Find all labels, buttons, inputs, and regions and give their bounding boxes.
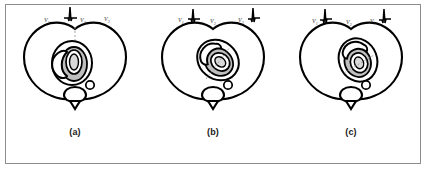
descending-aorta: [224, 81, 232, 89]
descending-aorta: [362, 81, 370, 89]
vertebra: [340, 87, 362, 102]
lead-label-v2: V2: [80, 17, 86, 25]
figure-panel-b: V1 V2 V3 (b): [148, 5, 278, 163]
panel-c-artwork: V1 V2 V3: [286, 5, 416, 129]
panel-a-artwork: V1 V2 V3: [10, 5, 140, 129]
figure-panel-c: V1 V2 V3 (c): [286, 5, 416, 163]
descending-aorta: [86, 81, 94, 89]
ecg-trace-icon: [379, 9, 391, 23]
figure-panel-a: V1 V2 V3 (a): [10, 5, 140, 163]
spinous-process: [70, 101, 80, 109]
lead-label-v3: V3: [104, 16, 110, 24]
lead-label-v1: V1: [44, 17, 50, 25]
vertebra: [64, 87, 86, 102]
lead-label-v2: V2: [210, 18, 216, 26]
figure-frame: V1 V2 V3 (a): [5, 4, 421, 164]
panel-b-artwork: V1 V2 V3: [148, 5, 278, 129]
vertebra: [202, 87, 224, 102]
ecg-trace-icon: [188, 9, 200, 22]
lead-label-v1: V1: [312, 18, 318, 26]
ecg-trace-icon: [248, 8, 260, 22]
ecg-trace-icon: [64, 7, 77, 21]
spinous-process: [208, 101, 218, 109]
ecg-trace-icon: [320, 9, 332, 23]
heart-group-a: [52, 41, 92, 85]
ventricular-septum: [70, 54, 79, 70]
spinous-process: [346, 101, 356, 109]
lead-label-v1: V1: [178, 17, 184, 25]
panel-row: V1 V2 V3 (a): [6, 5, 420, 163]
